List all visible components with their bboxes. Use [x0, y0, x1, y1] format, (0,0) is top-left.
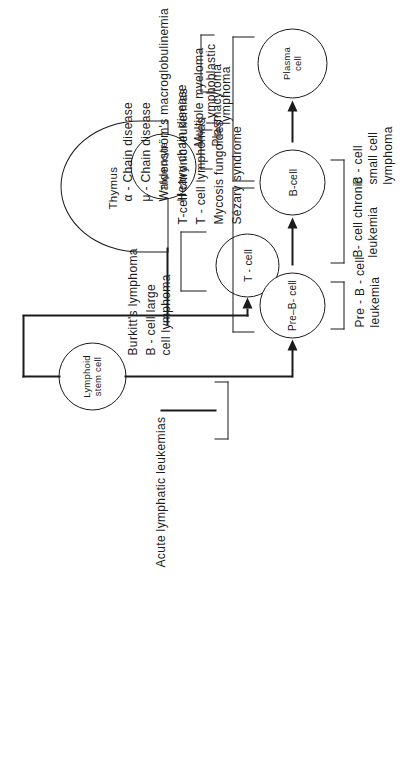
- pre-b-cell-leukemia-bracket: [330, 281, 344, 329]
- b-cell-leukemia-lymphoma-bracket: [330, 159, 344, 263]
- acute-lymphatic-leukemias-stalk: [160, 409, 216, 411]
- b-cell-lymphoma-0: Burkitt's lymphoma: [125, 248, 140, 355]
- stem-to-pre-b-arrowhead: [287, 339, 297, 350]
- pre-b-to-b-line: [291, 227, 293, 265]
- stem-to-pre-b-line: [291, 349, 293, 377]
- figure-rotation-wrapper: Thymus Thymocyte Lymphoblastic lymphoma …: [0, 0, 400, 757]
- lymphoid-lineage-diagram: Thymus Thymocyte Lymphoblastic lymphoma …: [0, 0, 400, 757]
- t-cell-diseases-bracket: [180, 231, 206, 291]
- acute-lymphatic-leukemias-label: Acute lymphatic leukemias: [153, 416, 168, 567]
- plasma-cell-dyscrasia-0: α - Chain disease: [120, 101, 135, 201]
- pre-b-cell-node[interactable]: Pre–B- cell: [259, 272, 325, 338]
- b-cell-label: B-cell: [286, 168, 298, 195]
- lymphoid-stem-cell-node[interactable]: Lymphoid stem cell: [58, 342, 126, 410]
- b-cell-lymphoma-1: B - cell large cell lymphoma: [143, 274, 173, 355]
- plasma-cell-dyscrasia-2: Waldenström's macroglobulinemia: [156, 8, 171, 201]
- b-cell-small-cell-lymphoma-label: B - cell small cell lymphoma: [350, 126, 395, 184]
- b-cell-lymphomas-bracket: [232, 187, 254, 332]
- pre-b-to-b-arrowhead: [287, 217, 297, 228]
- plasma-cell-label: Plasma cell: [281, 47, 303, 80]
- pre-b-cell-label: Pre–B- cell: [286, 279, 298, 330]
- stem-to-t-cell-line: [22, 315, 24, 377]
- b-cell-chronic-leukemia-label: B- cell chronic leukemia: [350, 176, 380, 257]
- b-to-plasma-line: [291, 110, 293, 142]
- b-cell-node[interactable]: B-cell: [259, 149, 325, 215]
- lymphoid-stem-cell-label: Lymphoid stem cell: [81, 355, 103, 397]
- plasma-cell-dyscrasia-1: μ - Chain disease: [138, 101, 153, 201]
- plasma-cell-node[interactable]: Plasma cell: [257, 28, 327, 98]
- stem-cell-spine-up: [22, 375, 60, 377]
- plasma-cell-dyscrasias-bracket: [232, 36, 254, 181]
- pre-b-cell-leukemia-label: Pre - B - cell leukemia: [352, 256, 382, 327]
- thymus-label: Thymus: [106, 166, 118, 209]
- plasmacytoma-label: Plasmacytoma: [209, 63, 224, 146]
- multiple-myeloma-label: Multiple myeloma: [191, 47, 206, 146]
- stem-cell-spine-down: [124, 375, 292, 377]
- b-to-plasma-arrowhead: [287, 100, 297, 111]
- plasma-cell-dyscrasia-3: Heavy chain disease: [174, 84, 189, 201]
